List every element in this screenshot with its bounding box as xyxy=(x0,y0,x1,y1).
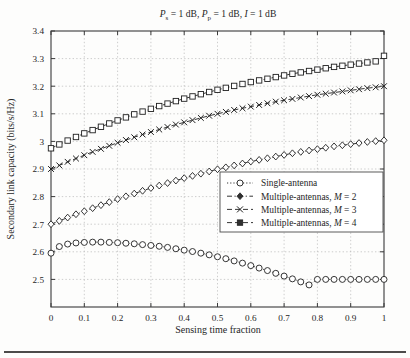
data-marker-circle xyxy=(123,240,129,246)
data-marker-circle xyxy=(364,276,370,282)
data-marker-square xyxy=(132,112,137,117)
data-marker-square xyxy=(281,73,286,78)
y-tick-label: 3.1 xyxy=(33,109,45,119)
data-marker-circle xyxy=(339,276,345,282)
data-marker-square xyxy=(65,138,70,143)
data-marker-square xyxy=(323,66,328,71)
data-marker-circle xyxy=(81,239,87,245)
data-marker-circle xyxy=(273,270,279,276)
legend-label: Single-antenna xyxy=(261,178,318,188)
data-marker-circle xyxy=(173,246,179,252)
data-marker-circle xyxy=(56,244,62,250)
data-marker-square xyxy=(206,89,211,94)
data-marker-circle xyxy=(73,240,79,246)
data-marker-square xyxy=(90,127,95,132)
data-marker-square xyxy=(298,70,303,75)
data-marker-circle xyxy=(181,247,187,253)
chart-legend[interactable]: Single-antennaMultiple-antennas, M = 2Mu… xyxy=(220,172,383,232)
data-marker-circle xyxy=(48,250,54,256)
data-marker-circle xyxy=(190,249,196,255)
data-marker-circle xyxy=(281,273,287,279)
data-marker-square xyxy=(256,78,261,83)
data-marker-circle xyxy=(298,279,304,285)
data-marker-square xyxy=(82,131,87,136)
x-axis-label: Sensing time fraction xyxy=(175,324,261,335)
data-marker-square xyxy=(265,76,270,81)
x-tick-label: 0.4 xyxy=(178,313,190,323)
data-marker-square xyxy=(182,96,187,101)
data-marker-circle xyxy=(331,276,337,282)
y-tick-label: 2.5 xyxy=(33,275,45,285)
data-marker-circle xyxy=(248,263,254,269)
legend-label: Multiple-antennas, M = 2 xyxy=(261,192,357,202)
data-marker-circle xyxy=(215,254,221,260)
data-marker-square xyxy=(73,134,78,139)
data-marker-square xyxy=(48,146,53,151)
data-marker-square xyxy=(148,106,153,111)
x-tick-label: 0.2 xyxy=(112,313,124,323)
data-marker-square xyxy=(331,64,336,69)
x-tick-label: 0.1 xyxy=(79,313,91,323)
y-tick-label: 3 xyxy=(39,137,44,147)
data-marker-square xyxy=(381,53,386,58)
data-marker-circle xyxy=(264,268,270,274)
data-marker-square xyxy=(157,103,162,108)
data-marker-circle xyxy=(206,252,212,258)
x-tick-label: 0.3 xyxy=(145,313,157,323)
y-tick-label: 2.9 xyxy=(33,164,45,174)
data-marker-circle xyxy=(156,243,162,249)
y-tick-label: 2.6 xyxy=(33,247,45,257)
data-marker-square xyxy=(107,121,112,126)
data-marker-square xyxy=(240,81,245,86)
data-marker-square xyxy=(57,142,62,147)
y-axis-label: Secondary link capacity (bits/s/Hz) xyxy=(5,99,17,240)
data-marker-circle xyxy=(356,276,362,282)
y-tick-label: 3.3 xyxy=(33,54,45,64)
x-tick-label: 0.8 xyxy=(312,313,324,323)
y-tick-label: 3.2 xyxy=(33,82,45,92)
data-marker-square xyxy=(373,59,378,64)
data-marker-circle xyxy=(314,276,320,282)
figure-container: Ps = 1 dB, Pp = 1 dB, I = 1 dB 00.10.20.… xyxy=(0,0,410,358)
y-tick-label: 3.4 xyxy=(33,26,45,36)
data-marker-square xyxy=(306,68,311,73)
data-marker-circle xyxy=(140,242,146,248)
y-tick-label: 2.8 xyxy=(33,192,45,202)
data-marker-circle xyxy=(98,239,104,245)
legend-label: Multiple-antennas, M = 4 xyxy=(261,218,357,228)
data-marker-square xyxy=(173,98,178,103)
data-marker-circle xyxy=(348,276,354,282)
data-marker-circle xyxy=(289,276,295,282)
data-marker-circle xyxy=(373,276,379,282)
data-marker-circle xyxy=(237,180,243,186)
data-marker-circle xyxy=(131,241,137,247)
data-marker-square xyxy=(290,71,295,76)
data-marker-circle xyxy=(165,244,171,250)
data-marker-square xyxy=(123,115,128,120)
data-marker-circle xyxy=(106,239,112,245)
data-marker-circle xyxy=(231,258,237,264)
x-tick-label: 0 xyxy=(49,313,54,323)
data-marker-square xyxy=(237,220,242,225)
x-tick-label: 0.9 xyxy=(345,313,357,323)
data-marker-square xyxy=(273,74,278,79)
x-tick-label: 0.6 xyxy=(245,313,257,323)
capacity-line-chart: Ps = 1 dB, Pp = 1 dB, I = 1 dB 00.10.20.… xyxy=(0,0,410,358)
x-tick-label: 0.7 xyxy=(278,313,290,323)
x-tick-label: 1 xyxy=(382,313,387,323)
data-marker-circle xyxy=(148,242,154,248)
data-marker-circle xyxy=(306,282,312,288)
data-marker-square xyxy=(165,101,170,106)
data-marker-square xyxy=(215,87,220,92)
data-marker-circle xyxy=(223,256,229,262)
y-tick-label: 2.7 xyxy=(33,220,45,230)
data-marker-square xyxy=(315,67,320,72)
data-marker-square xyxy=(223,85,228,90)
data-marker-circle xyxy=(239,260,245,266)
data-marker-square xyxy=(140,109,145,114)
data-marker-circle xyxy=(115,240,121,246)
data-marker-square xyxy=(198,92,203,97)
data-marker-circle xyxy=(381,276,387,282)
data-marker-circle xyxy=(198,250,204,256)
data-marker-square xyxy=(190,94,195,99)
